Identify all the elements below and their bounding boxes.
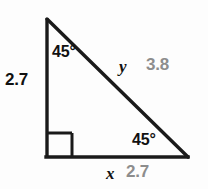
leg-left-length-label: 2.7	[5, 71, 28, 88]
base-variable-label: x	[106, 165, 115, 182]
hypotenuse-length-label: 3.8	[146, 56, 169, 73]
triangle-figure	[0, 0, 208, 189]
angle-label-top: 45°	[52, 44, 76, 60]
hypotenuse-line	[47, 19, 188, 157]
hypotenuse-variable-label: y	[119, 58, 127, 75]
base-length-label: 2.7	[126, 163, 149, 180]
angle-label-bottom-right: 45°	[132, 132, 156, 148]
triangle-outline	[46, 19, 188, 157]
